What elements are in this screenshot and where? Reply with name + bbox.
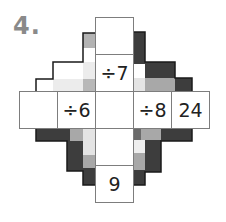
cell-top-1[interactable] [95,17,134,55]
cell-right-1[interactable]: ÷8 [133,91,172,129]
cell-left-1[interactable] [19,91,58,129]
cell-center[interactable] [95,91,134,129]
cell-left-2[interactable]: ÷6 [57,91,96,129]
outline-bottom-left [36,128,95,185]
cell-bottom-2[interactable]: 9 [95,165,134,203]
cell-right-2[interactable]: 24 [171,91,210,129]
outline-top-left [36,33,95,91]
cell-bottom-1[interactable] [95,128,134,166]
cell-top-2[interactable]: ÷7 [95,54,134,92]
outline-bottom-right [133,128,192,185]
outline-top-right [133,32,192,91]
